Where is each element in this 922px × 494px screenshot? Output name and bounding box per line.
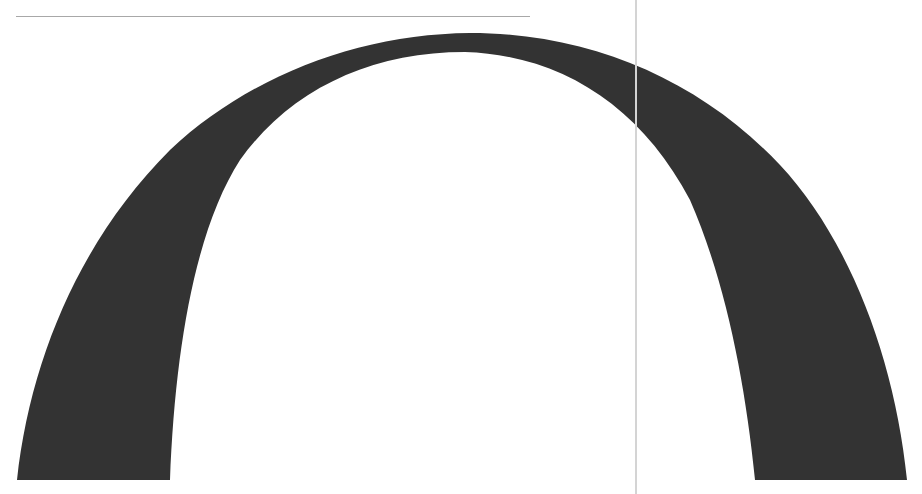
arch-glyph-icon (0, 0, 922, 494)
vertical-rule (635, 0, 637, 494)
arch-shape (17, 33, 907, 480)
scan-canvas (0, 0, 922, 494)
